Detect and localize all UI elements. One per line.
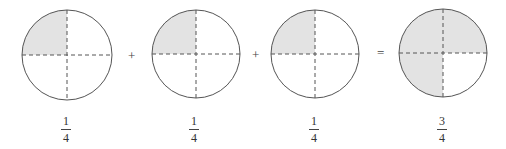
numerator: 1 (184, 115, 204, 127)
plus-sign-1: + (128, 49, 135, 62)
circle-three-quarters (399, 9, 487, 97)
denominator: 4 (56, 132, 76, 144)
circle-one-quarter-2 (152, 10, 240, 98)
equals-sign: = (377, 46, 384, 59)
fraction-label-2: 1 4 (184, 115, 204, 144)
fraction-bar (309, 129, 319, 130)
numerator: 1 (304, 115, 324, 127)
shaded-quadrant (271, 10, 315, 54)
shaded-quadrant (22, 10, 67, 55)
fraction-bar (437, 129, 447, 130)
denominator: 4 (184, 132, 204, 144)
numerator: 3 (432, 115, 452, 127)
fraction-label-4: 3 4 (432, 115, 452, 144)
denominator: 4 (432, 132, 452, 144)
shaded-quadrant (152, 10, 196, 54)
numerator: 1 (56, 115, 76, 127)
fraction-label-1: 1 4 (56, 115, 76, 144)
plus-sign-2: + (252, 48, 259, 61)
denominator: 4 (304, 132, 324, 144)
fraction-bar (189, 129, 199, 130)
fraction-addition-diagram: + + = 1 4 1 4 1 4 3 4 (0, 0, 506, 149)
fraction-label-3: 1 4 (304, 115, 324, 144)
circle-one-quarter-1 (22, 10, 112, 100)
fraction-bar (61, 129, 71, 130)
circle-one-quarter-3 (271, 10, 359, 98)
